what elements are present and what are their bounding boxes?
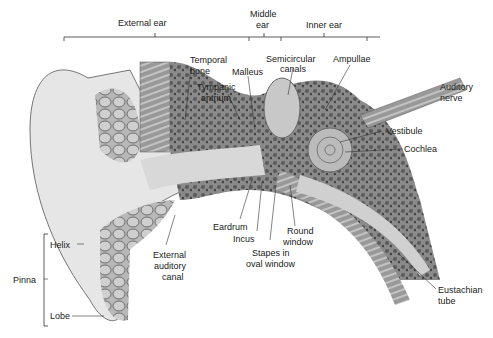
label-semicircular-canals-line2: canals [280,64,306,74]
label-incus: Incus [233,234,255,244]
label-stapes-line2: oval window [246,259,295,269]
label-eustachian-tube-line2: tube [438,296,456,306]
label-external-auditory-canal-line2: auditory [154,261,186,271]
label-middle-ear-line1: Middle [250,9,277,19]
label-external-ear: External ear [118,18,167,28]
label-inner-ear: Inner ear [306,20,342,30]
label-external-auditory-canal-line1: External [153,250,186,260]
label-tympanic-antrium-line2: antrium [201,93,231,103]
label-lobe: Lobe [50,311,70,321]
label-temporal-bone-line1: Temporal [190,55,227,65]
label-cochlea: Cochlea [404,144,437,154]
label-temporal-bone-line2: bone [190,66,210,76]
label-malleus: Malleus [232,67,263,77]
label-semicircular-canals-line1: Semicircular [266,54,316,64]
ear-anatomy-illustration [0,0,493,338]
label-external-auditory-canal-line3: canal [162,272,184,282]
label-tympanic-antrium-line1: Tympanic [197,82,236,92]
label-eustachian-tube-line1: Eustachian [438,285,483,295]
label-auditory-nerve-line2: nerve [440,93,463,103]
label-round-window-line2: window [283,237,313,247]
label-helix: Helix [50,240,70,250]
label-pinna: Pinna [13,275,36,285]
label-vestibule: Vestibule [386,126,423,136]
label-ampullae: Ampullae [333,54,371,64]
label-round-window-line1: Round [287,226,314,236]
label-eardrum: Eardrum [213,222,248,232]
label-auditory-nerve-line1: Auditory [440,82,473,92]
label-stapes-line1: Stapes in [252,248,290,258]
label-middle-ear-line2: ear [256,20,269,30]
